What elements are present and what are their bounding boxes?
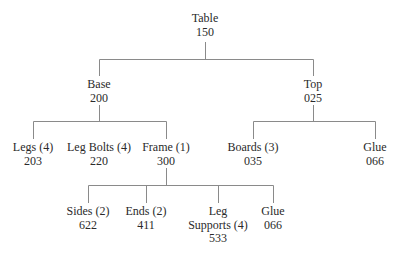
node-frame-glue: Glue 066 (261, 205, 284, 232)
node-sides: Sides (2) 622 (67, 205, 110, 232)
node-code: 066 (261, 219, 284, 233)
node-label: Sides (2) (67, 205, 110, 219)
node-code: 411 (126, 219, 167, 233)
node-code: 025 (304, 92, 323, 106)
node-frame: Frame (1) 300 (142, 141, 190, 168)
node-code: 066 (363, 155, 386, 169)
node-code: 203 (13, 155, 53, 169)
node-code: 300 (142, 155, 190, 169)
node-label: Frame (1) (142, 141, 190, 155)
node-label: Boards (3) (228, 141, 279, 155)
node-label: Glue (363, 141, 386, 155)
node-leg-bolts: Leg Bolts (4) 220 (67, 141, 131, 168)
node-code: 622 (67, 219, 110, 233)
node-label-line2: Supports (4) (188, 219, 248, 233)
node-top: Top 025 (304, 78, 323, 105)
node-label: Leg Bolts (4) (67, 141, 131, 155)
node-code: 220 (67, 155, 131, 169)
node-boards: Boards (3) 035 (228, 141, 279, 168)
node-code: 200 (87, 92, 110, 106)
node-label: Ends (2) (126, 205, 167, 219)
node-label: Glue (261, 205, 284, 219)
node-code: 035 (228, 155, 279, 169)
node-code: 150 (192, 26, 218, 40)
node-leg-supports: Leg Supports (4) 533 (188, 205, 248, 246)
node-legs: Legs (4) 203 (13, 141, 53, 168)
node-label: Table (192, 12, 218, 26)
node-code: 533 (188, 232, 248, 246)
node-base: Base 200 (87, 78, 110, 105)
node-label: Top (304, 78, 323, 92)
node-top-glue: Glue 066 (363, 141, 386, 168)
node-table: Table 150 (192, 12, 218, 39)
node-label: Legs (4) (13, 141, 53, 155)
node-label: Base (87, 78, 110, 92)
node-ends: Ends (2) 411 (126, 205, 167, 232)
node-label-line1: Leg (188, 205, 248, 219)
